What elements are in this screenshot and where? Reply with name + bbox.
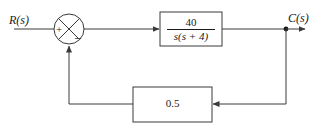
output-signal-label: C(s) bbox=[288, 12, 309, 24]
input-signal-label: R(s) bbox=[9, 14, 29, 26]
summing-junction-minus-sign: − bbox=[74, 32, 81, 45]
transfer-function-numerator: 40 bbox=[160, 17, 222, 28]
feedback-gain-value: 0.5 bbox=[133, 98, 212, 109]
block-diagram-canvas: R(s) C(s) + − 40 s(s + 4) 0.5 bbox=[0, 0, 328, 133]
transfer-function-denominator: s(s + 4) bbox=[160, 31, 222, 42]
summing-junction-plus-sign: + bbox=[56, 24, 62, 35]
